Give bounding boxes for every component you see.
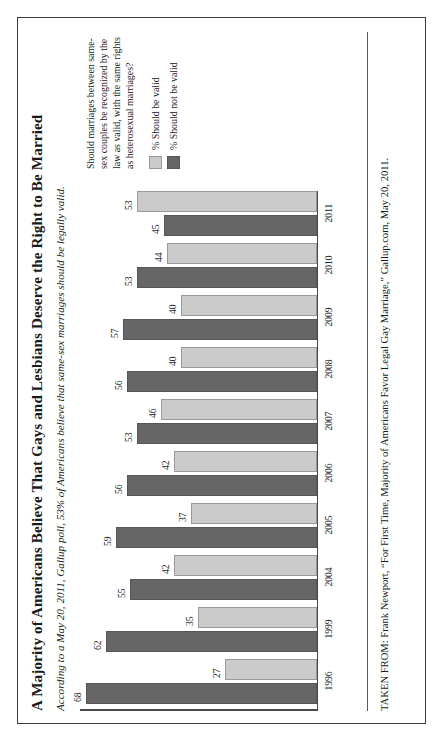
bar: [181, 347, 317, 368]
question-and-legend: Should marriages between same-sex couple…: [84, 29, 180, 169]
x-axis-tick-label: 2006: [323, 447, 334, 499]
page-subtitle: According to a May 20, 2011, Gallup poll…: [54, 41, 67, 711]
bar-value-label: 44: [153, 252, 164, 262]
bar: [127, 475, 317, 496]
x-axis-tick-label: 2009: [323, 291, 334, 343]
bar: [181, 295, 317, 316]
bar: [174, 451, 317, 472]
bar-value-label: 40: [167, 304, 178, 314]
bar-value-label: 57: [109, 328, 120, 338]
x-axis-tick-label: 1996: [323, 655, 334, 707]
bar: [127, 371, 317, 392]
x-axis-tick-label: 2010: [323, 239, 334, 291]
bar-value-label: 37: [177, 512, 188, 522]
page-border: A Majority of Americans Believe That Gay…: [17, 17, 426, 724]
bar-value-label: 46: [147, 408, 158, 418]
bar: [130, 579, 317, 600]
bar: [123, 319, 317, 340]
x-axis-tick-label: 2005: [323, 499, 334, 551]
bar: [161, 399, 317, 420]
bar: [225, 659, 317, 680]
bar: [191, 503, 317, 524]
bar: [164, 215, 317, 236]
legend-swatch-should-not-be-valid: [167, 156, 180, 169]
bar-value-label: 55: [116, 588, 127, 598]
footer-divider: [367, 32, 368, 711]
legend-item: % Should be valid: [149, 29, 162, 169]
x-axis-tick-label: 2011: [323, 187, 334, 239]
bar: [106, 631, 317, 652]
bar-value-label: 59: [102, 536, 113, 546]
legend-item: % Should not be valid: [167, 29, 180, 169]
x-axis-baseline: [317, 191, 319, 711]
bar-value-label: 53: [123, 276, 134, 286]
bar: [137, 423, 317, 444]
bar-value-label: 56: [113, 380, 124, 390]
bar: [86, 683, 317, 704]
bar: [137, 191, 317, 212]
bar-value-label: 35: [184, 616, 195, 626]
chart-plot-area: 6827199662351999554220045937200556422006…: [80, 191, 318, 711]
bar-value-label: 56: [113, 484, 124, 494]
x-axis-tick-label: 2008: [323, 343, 334, 395]
bar-value-label: 45: [150, 224, 161, 234]
bar-value-label: 42: [160, 564, 171, 574]
legend-label-should-not-be-valid: % Should not be valid: [169, 62, 179, 150]
y-axis-line: [80, 710, 318, 712]
source-citation: TAKEN FROM: Frank Newport, “For First Ti…: [378, 32, 391, 711]
bar-value-label: 42: [160, 460, 171, 470]
legend-swatch-should-be-valid: [149, 156, 162, 169]
x-axis-tick-label: 2007: [323, 395, 334, 447]
bar-chart: 6827199662351999554220045937200556422006…: [80, 151, 348, 711]
bar: [137, 267, 317, 288]
x-axis-tick-label: 2004: [323, 551, 334, 603]
bar-value-label: 62: [92, 640, 103, 650]
chart-legend: % Should be valid % Should not be valid: [149, 29, 180, 169]
bar: [116, 527, 317, 548]
bar: [167, 243, 317, 264]
rotated-content-stage: A Majority of Americans Believe That Gay…: [18, 18, 427, 725]
bar-value-label: 68: [72, 692, 83, 702]
x-axis-tick-label: 1999: [323, 603, 334, 655]
bar: [174, 555, 317, 576]
survey-question: Should marriages between same-sex couple…: [84, 29, 136, 169]
bar-value-label: 40: [167, 356, 178, 366]
infographic-page: A Majority of Americans Believe That Gay…: [0, 0, 444, 742]
legend-label-should-be-valid: % Should be valid: [151, 77, 161, 150]
bar: [198, 607, 317, 628]
bar-value-label: 27: [211, 668, 222, 678]
page-title: A Majority of Americans Believe That Gay…: [28, 51, 46, 711]
bar-value-label: 53: [123, 200, 134, 210]
bar-value-label: 53: [123, 432, 134, 442]
